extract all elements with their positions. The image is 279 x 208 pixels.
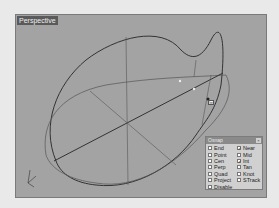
checkbox[interactable]: [208, 178, 212, 182]
axis-gizmo-icon: [28, 170, 36, 187]
osnap-panel: Osnap × End ✓Near Point Mid Cen ✓Int Per…: [205, 136, 263, 190]
osnap-disable[interactable]: Disable: [208, 183, 237, 189]
checkbox-checked[interactable]: ✓: [237, 159, 241, 163]
osnap-strack[interactable]: STrack: [237, 177, 264, 183]
checkbox[interactable]: [237, 153, 241, 157]
checkbox[interactable]: [208, 146, 212, 150]
checkbox[interactable]: [208, 159, 212, 163]
osnap-title: Osnap: [208, 137, 223, 143]
osnap-tooltip: Int: [208, 100, 214, 105]
viewport-title[interactable]: Perspective: [17, 16, 58, 25]
osnap-options: End ✓Near Point Mid Cen ✓Int Perp Tan Qu…: [206, 144, 262, 190]
checkbox[interactable]: [208, 165, 212, 169]
checkbox[interactable]: [208, 185, 212, 189]
checkbox-checked[interactable]: ✓: [237, 146, 241, 150]
osnap-title-bar[interactable]: Osnap ×: [206, 137, 262, 144]
checkbox[interactable]: [237, 178, 241, 182]
checkbox[interactable]: [237, 172, 241, 176]
close-icon[interactable]: ×: [256, 138, 261, 143]
checkbox[interactable]: [237, 165, 241, 169]
checkbox[interactable]: [208, 153, 212, 157]
checkbox[interactable]: [208, 172, 212, 176]
